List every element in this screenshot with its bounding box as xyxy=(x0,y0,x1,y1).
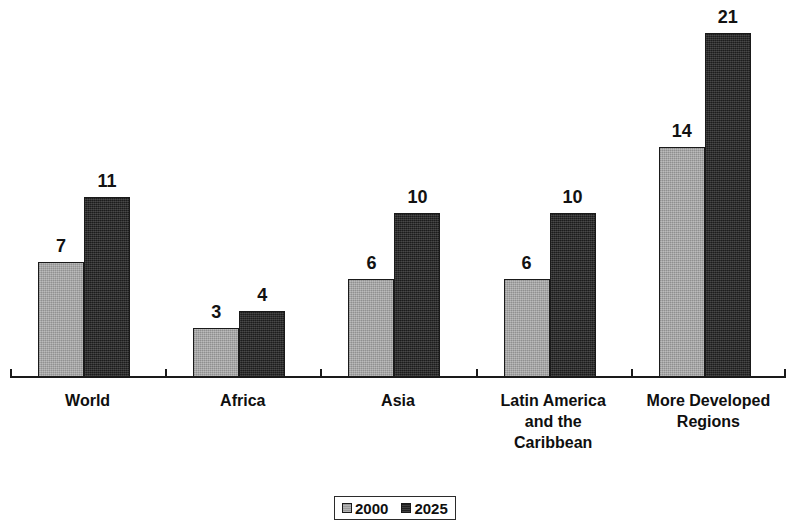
category-label-line: and the xyxy=(476,411,631,432)
bar-value-label: 6 xyxy=(348,254,394,272)
category-label: More DevelopedRegions xyxy=(631,390,786,432)
bar-value-label: 21 xyxy=(705,8,751,26)
bar-value-label: 7 xyxy=(38,237,84,255)
plot-area: 711346106101421 xyxy=(10,8,786,377)
bar-2000-asia xyxy=(348,279,394,377)
bar-2000-africa xyxy=(193,328,239,377)
bar-group: 610 xyxy=(476,8,631,377)
axis-tick xyxy=(10,369,12,377)
category-label-line: Regions xyxy=(631,411,786,432)
axis-tick xyxy=(631,369,633,377)
bar-value-label: 6 xyxy=(504,254,550,272)
category-label-line: Latin America xyxy=(476,390,631,411)
category-label-row: WorldAfricaAsiaLatin Americaand theCarib… xyxy=(0,390,796,480)
category-label: Africa xyxy=(165,390,320,411)
axis-baseline xyxy=(10,376,786,378)
category-label: World xyxy=(10,390,165,411)
legend-item: 2000 xyxy=(342,501,388,516)
bar-chart: 711346106101421 WorldAfricaAsiaLatin Ame… xyxy=(0,0,796,529)
category-label: Asia xyxy=(320,390,475,411)
legend-swatch-2025 xyxy=(401,503,411,513)
bar-value-label: 10 xyxy=(550,188,596,206)
category-label-line: Africa xyxy=(165,390,320,411)
legend-item: 2025 xyxy=(401,501,447,516)
legend-label: 2000 xyxy=(355,501,388,516)
axis-tick xyxy=(320,369,322,377)
bar-2025-world xyxy=(84,197,130,377)
bar-2000-world xyxy=(38,262,84,377)
bar-group: 34 xyxy=(165,8,320,377)
bar-value-label: 11 xyxy=(84,172,130,190)
category-label-line: Caribbean xyxy=(476,432,631,453)
category-label: Latin Americaand theCaribbean xyxy=(476,390,631,453)
bar-value-label: 4 xyxy=(239,286,285,304)
axis-tick xyxy=(476,369,478,377)
bar-2000-latin-america-and-the-caribbean xyxy=(504,279,550,377)
category-label-line: More Developed xyxy=(631,390,786,411)
bar-2025-more-developed-regions xyxy=(705,33,751,377)
bar-group: 1421 xyxy=(631,8,786,377)
category-label-line: World xyxy=(10,390,165,411)
category-axis xyxy=(0,376,796,388)
bar-group: 711 xyxy=(10,8,165,377)
bar-value-label: 3 xyxy=(193,303,239,321)
bar-2025-latin-america-and-the-caribbean xyxy=(550,213,596,377)
legend-swatch-2000 xyxy=(342,503,352,513)
bar-value-label: 14 xyxy=(659,122,705,140)
bar-group: 610 xyxy=(320,8,475,377)
category-label-line: Asia xyxy=(320,390,475,411)
bar-2025-asia xyxy=(394,213,440,377)
axis-tick xyxy=(784,369,786,377)
bar-value-label: 10 xyxy=(394,188,440,206)
chart-legend: 20002025 xyxy=(334,496,456,520)
bar-2025-africa xyxy=(239,311,285,377)
bar-2000-more-developed-regions xyxy=(659,147,705,377)
legend-label: 2025 xyxy=(414,501,447,516)
axis-tick xyxy=(165,369,167,377)
